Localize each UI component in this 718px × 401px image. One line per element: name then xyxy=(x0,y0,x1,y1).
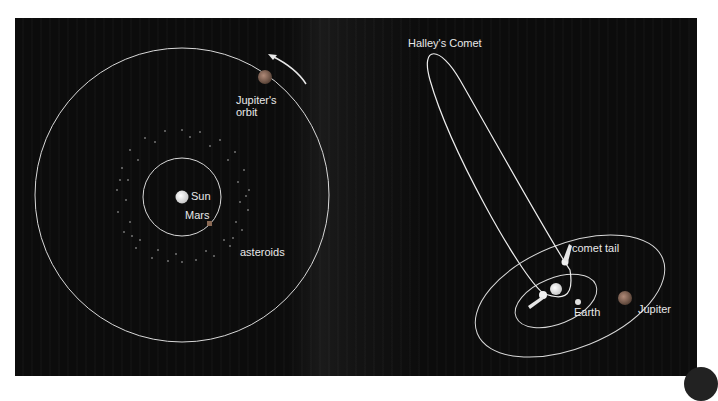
sun-right xyxy=(550,283,562,295)
halley-orbit xyxy=(427,54,571,297)
jupiter-orbit-ellipse xyxy=(458,210,682,376)
earth-orbit-ellipse xyxy=(508,264,605,339)
label-sun: Sun xyxy=(191,190,211,202)
label-jupiter-orbit: Jupiter's orbit xyxy=(236,94,277,118)
orbit-diagram xyxy=(15,18,697,376)
diagram-panel: Jupiter's orbit Sun Mars asteroids Halle… xyxy=(15,18,697,376)
label-mars: Mars xyxy=(185,209,209,221)
label-halleys-comet: Halley's Comet xyxy=(408,37,482,49)
label-asteroids: asteroids xyxy=(240,246,285,258)
orbit-direction-arrow xyxy=(272,56,306,84)
earth-planet xyxy=(575,299,581,305)
jupiter-left xyxy=(258,70,272,84)
jupiter-right xyxy=(618,291,632,305)
mars-planet xyxy=(207,221,212,226)
comet-tail-near xyxy=(528,297,545,309)
label-comet-tail: comet tail xyxy=(572,242,619,254)
sun-left xyxy=(176,191,189,204)
comet-tail-upper xyxy=(563,244,572,262)
label-jupiter: Jupiter xyxy=(638,303,671,315)
label-earth: Earth xyxy=(574,306,600,318)
corner-decoration xyxy=(684,367,718,401)
